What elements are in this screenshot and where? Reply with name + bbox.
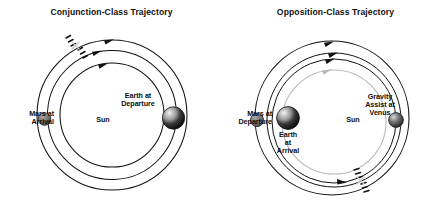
label-mars-at-departure: Mars at Departure	[224, 110, 272, 126]
label-mars-at-arrival: Mars at Arrival	[6, 110, 54, 126]
direction-arrow-transfer	[92, 51, 102, 57]
earth-orbit-circle	[60, 63, 164, 167]
earth-body	[162, 107, 184, 129]
label-earth-at-arrival: Earth at Arrival	[270, 131, 306, 156]
label-gravity-assist-at-venus: Gravity Assist at Venus	[358, 93, 402, 118]
earth-body	[277, 107, 300, 130]
panel-conjunction-class: Conjunction-Class Trajectory	[0, 0, 223, 220]
label-sun: Sun	[86, 116, 120, 124]
label-earth-at-departure: Earth at Departure	[110, 92, 166, 108]
transfer-ellipse	[45, 48, 178, 181]
trajectory-figure: Conjunction-Class Trajectory	[0, 0, 447, 220]
direction-arrow-earth-orbit	[322, 69, 332, 75]
panel-opposition-class: Opposition-Class Trajectory	[224, 0, 447, 220]
direction-arrow-mars-orbit	[324, 42, 334, 48]
